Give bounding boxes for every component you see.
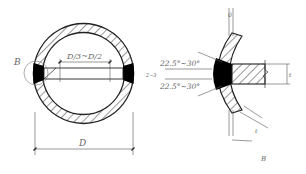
wall-thickness-label: t [255, 127, 258, 134]
pipe-section: B D/3~D/2 D [13, 24, 135, 156]
detail-b-title: B [260, 155, 266, 163]
inner-plate [44, 68, 123, 79]
top-gap-label: 0 [228, 11, 232, 18]
outer-dim-label: D [78, 138, 86, 148]
angle-bottom-label: 22.5°~30° [159, 82, 200, 91]
plate-thickness-label: t [289, 71, 292, 78]
root-gap-label: 2~3 [145, 72, 157, 78]
angle-top-label: 22.5°~30° [159, 59, 200, 68]
detail-b-view: t 22.5°~30° 22.5°~30° 2~3 0 t B [145, 8, 292, 163]
detail-b-label: B [13, 57, 21, 67]
plate [232, 64, 265, 84]
inner-dim-label: D/3~D/2 [66, 52, 102, 61]
weld-drawing: B D/3~D/2 D t 22.5°~30° 22.5°~30° [0, 0, 306, 174]
